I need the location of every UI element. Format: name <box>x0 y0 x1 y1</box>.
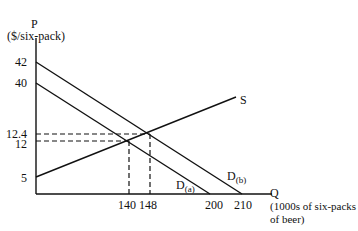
y-tick-40: 40 <box>15 77 27 89</box>
demand-b-label: D(b) <box>227 170 246 186</box>
demand-b-main: D <box>227 169 236 183</box>
y-tick-5: 5 <box>21 172 27 184</box>
demand-a-sub: (a) <box>185 184 195 194</box>
supply-curve <box>36 97 236 177</box>
demand-a-main: D <box>176 178 185 192</box>
demand-a-label: D(a) <box>176 179 195 195</box>
x-axis-label: Q <box>270 187 279 199</box>
y-axis-unit: ($/six-pack) <box>7 30 65 42</box>
y-tick-42: 42 <box>15 56 27 68</box>
x-tick-210: 210 <box>234 199 252 211</box>
supply-label: S <box>240 94 247 106</box>
demand-curve-b <box>36 62 242 194</box>
y-tick-12: 12 <box>15 138 27 150</box>
x-tick-148: 148 <box>139 199 157 211</box>
demand-b-sub: (b) <box>236 175 247 185</box>
x-tick-200: 200 <box>205 199 223 211</box>
x-axis-unit-line1: (1000s of six-packs <box>270 200 356 212</box>
x-tick-140: 140 <box>118 199 136 211</box>
x-axis-unit-line2: of beer) <box>270 213 305 225</box>
